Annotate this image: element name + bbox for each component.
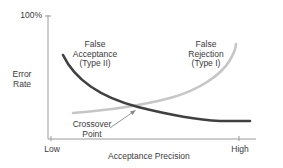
false-acceptance-label: False Acceptance (Type II) — [70, 40, 120, 69]
fa-label-line3: (Type II) — [70, 59, 120, 69]
fr-label-line3: (Type I) — [184, 59, 228, 69]
false-rejection-label: False Rejection (Type I) — [184, 40, 228, 69]
crossover-arrow-line — [110, 112, 133, 128]
y-max-label: 100% — [20, 11, 42, 21]
crossover-label-line2: Point — [72, 130, 112, 140]
x-high-label: High — [229, 145, 251, 155]
x-axis-label: Acceptance Precision — [108, 152, 188, 162]
crossover-label: Crossover Point — [72, 120, 112, 139]
y-axis-label-line2: Rate — [8, 80, 36, 90]
x-low-label: Low — [42, 145, 62, 155]
error-rate-chart — [0, 0, 283, 168]
crossover-arrow-head — [130, 110, 136, 115]
y-axis-label: Error Rate — [8, 70, 36, 89]
